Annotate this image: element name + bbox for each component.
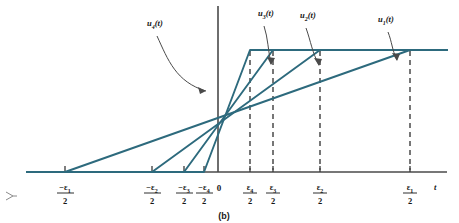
origin-label: 0 — [217, 183, 222, 193]
x-axis-label: t — [434, 182, 437, 192]
curve-label-u4: u4(t) — [147, 18, 163, 30]
curve-label-u2-suffix: (t) — [308, 10, 316, 20]
leader-arrowhead-group — [198, 53, 400, 94]
curve-u2 — [27, 50, 447, 172]
curve-label-u1-suffix: (t) — [386, 14, 394, 24]
curve-label-u3: u3(t) — [258, 8, 274, 20]
curve-group — [27, 50, 447, 172]
svg-text:−ε3: −ε3 — [178, 182, 189, 194]
svg-text:−ε1: −ε1 — [59, 182, 70, 194]
tick-label-neg-eps3: −ε3 2 — [176, 182, 193, 206]
svg-text:ε4: ε4 — [247, 182, 254, 194]
plot-svg: u4(t) u3(t) u2(t) u1(t) −ε1 2 −ε2 2 −ε3 … — [0, 0, 459, 223]
tick-label-neg-eps2: −ε2 2 — [144, 182, 161, 206]
pos3-den: 2 — [271, 196, 275, 206]
pos4-den: 2 — [248, 196, 252, 206]
scan-artifact-mark — [6, 192, 17, 200]
curve-label-u2: u2(t) — [300, 10, 316, 22]
tick-label-eps2: ε2 2 — [313, 182, 327, 206]
arrowhead-u3 — [267, 57, 275, 65]
neg1-den: 2 — [63, 196, 67, 206]
dashed-dropline-group — [250, 51, 410, 170]
svg-text:u3(t): u3(t) — [258, 8, 274, 20]
curve-label-u3-suffix: (t) — [266, 8, 274, 18]
svg-text:ε3: ε3 — [270, 182, 277, 194]
arrowhead-u1 — [392, 53, 400, 61]
figure-container: u4(t) u3(t) u2(t) u1(t) −ε1 2 −ε2 2 −ε3 … — [0, 0, 459, 223]
neg3-den: 2 — [182, 196, 186, 206]
pos2-den: 2 — [318, 196, 322, 206]
svg-text:ε1: ε1 — [407, 182, 414, 194]
svg-text:−ε4: −ε4 — [198, 182, 209, 194]
svg-text:u4(t): u4(t) — [147, 18, 163, 30]
tick-label-eps3: ε3 2 — [266, 182, 280, 206]
tick-label-neg-eps1: −ε1 2 — [57, 182, 74, 206]
svg-text:u2(t): u2(t) — [300, 10, 316, 22]
pos1-den: 2 — [408, 196, 412, 206]
neg2-den: 2 — [150, 196, 154, 206]
arrowhead-u4 — [198, 87, 206, 94]
tick-label-neg-eps4: −ε4 2 — [196, 182, 213, 206]
curve-label-u4-suffix: (t) — [155, 18, 163, 28]
svg-text:−ε2: −ε2 — [146, 182, 157, 194]
tick-label-eps4: ε4 2 — [243, 182, 257, 206]
tick-label-eps1: ε1 2 — [403, 182, 417, 206]
curve-label-u1: u1(t) — [378, 14, 394, 26]
svg-text:ε2: ε2 — [317, 182, 324, 194]
figure-caption: (b) — [218, 211, 230, 221]
leader-u4 — [157, 36, 206, 91]
neg4-den: 2 — [202, 196, 206, 206]
arrowhead-u2 — [314, 58, 322, 66]
svg-text:u1(t): u1(t) — [378, 14, 394, 26]
